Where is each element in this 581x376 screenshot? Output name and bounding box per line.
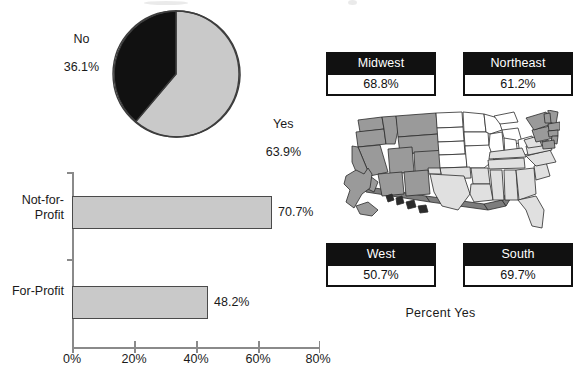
region-name-midwest: Midwest [328, 54, 434, 73]
region-name-northeast: Northeast [465, 54, 571, 73]
pie-label-yes-value: 63.9% [266, 145, 301, 159]
region-name-west: West [328, 245, 434, 264]
bar-plot-area: 70.7% 48.2% [72, 172, 320, 347]
pie-chart-graphic [110, 8, 242, 140]
region-box-midwest: Midwest 68.8% [326, 52, 436, 96]
region-box-northeast: Northeast 61.2% [463, 52, 573, 96]
x-tick-label-20: 20% [111, 352, 157, 366]
figure-canvas: No 36.1% Yes 63.9% Not-for- Profit For-P… [0, 0, 581, 376]
region-value-south: 69.7% [465, 264, 571, 285]
us-map-graphic [338, 110, 560, 238]
pie-label-yes-name: Yes [273, 117, 293, 131]
pie-chart-panel: No 36.1% Yes 63.9% [0, 0, 300, 160]
y-axis-tick [67, 259, 73, 261]
pie-label-no-value: 36.1% [64, 60, 99, 74]
y-axis-tick [67, 172, 73, 174]
region-value-midwest: 68.8% [328, 73, 434, 94]
region-value-west: 50.7% [328, 264, 434, 285]
bar-category-label-not-for-profit: Not-for- Profit [0, 193, 64, 223]
x-tick-label-40: 40% [173, 352, 219, 366]
region-value-northeast: 61.2% [465, 73, 571, 94]
region-box-south: South 69.7% [463, 243, 573, 287]
x-tick-label-0: 0% [49, 352, 95, 366]
region-box-west: West 50.7% [326, 243, 436, 287]
bar-value-for-profit: 48.2% [214, 295, 249, 309]
pie-label-no-name: No [73, 32, 89, 46]
regional-map-panel: Midwest 68.8% Northeast 61.2% West 50.7%… [300, 0, 581, 376]
x-tick-label-60: 60% [235, 352, 281, 366]
bar-category-label-for-profit: For-Profit [0, 284, 64, 299]
bar-for-profit [72, 286, 208, 319]
bar-chart-panel: Not-for- Profit For-Profit 70.7% 48.2% 0… [0, 160, 330, 376]
region-name-south: South [465, 245, 571, 264]
pie-label-no: No 36.1% [38, 18, 104, 88]
bar-not-for-profit [72, 196, 272, 229]
map-caption: Percent Yes [300, 306, 581, 320]
